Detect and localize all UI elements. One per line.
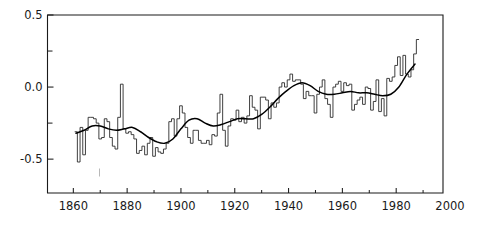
temperature-anomaly-chart: 18601880190019201940196019802000 0.50.0-… [0, 0, 478, 229]
x-tick-label-1880: 1880 [112, 199, 141, 213]
x-tick-label-1980: 1980 [382, 199, 411, 213]
x-tick-label-1900: 1900 [166, 199, 195, 213]
chart-figure: 18601880190019201940196019802000 0.50.0-… [0, 0, 478, 229]
y-tick-label--0.5: -0.5 [20, 152, 42, 166]
x-tick-label-2000: 2000 [435, 199, 464, 213]
x-tick-label-1960: 1960 [328, 199, 357, 213]
x-tick-label-1920: 1920 [220, 199, 249, 213]
x-tick-label-1860: 1860 [59, 199, 88, 213]
y-tick-label-0.5: 0.5 [24, 8, 42, 22]
x-tick-label-1940: 1940 [274, 199, 303, 213]
y-tick-label-0.0: 0.0 [24, 80, 42, 94]
